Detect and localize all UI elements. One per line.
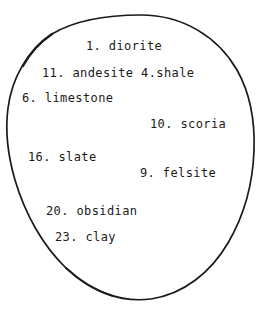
oval-ink-overdraw-bottom (66, 268, 113, 296)
list-item: 16. slate (28, 151, 97, 164)
list-item: 9. felsite (140, 167, 216, 180)
diagram-canvas: 1. diorite 11. andesite 4.shale 6. limes… (0, 0, 261, 314)
list-item: 10. scoria (150, 118, 226, 131)
list-item: 6. limestone (22, 92, 114, 105)
oval-ink-overdraw-top-left (23, 34, 52, 66)
list-item: 20. obsidian (46, 205, 138, 218)
list-item: 11. andesite 4.shale (42, 67, 195, 80)
list-item: 1. diorite (86, 40, 162, 53)
list-item: 23. clay (55, 231, 116, 244)
